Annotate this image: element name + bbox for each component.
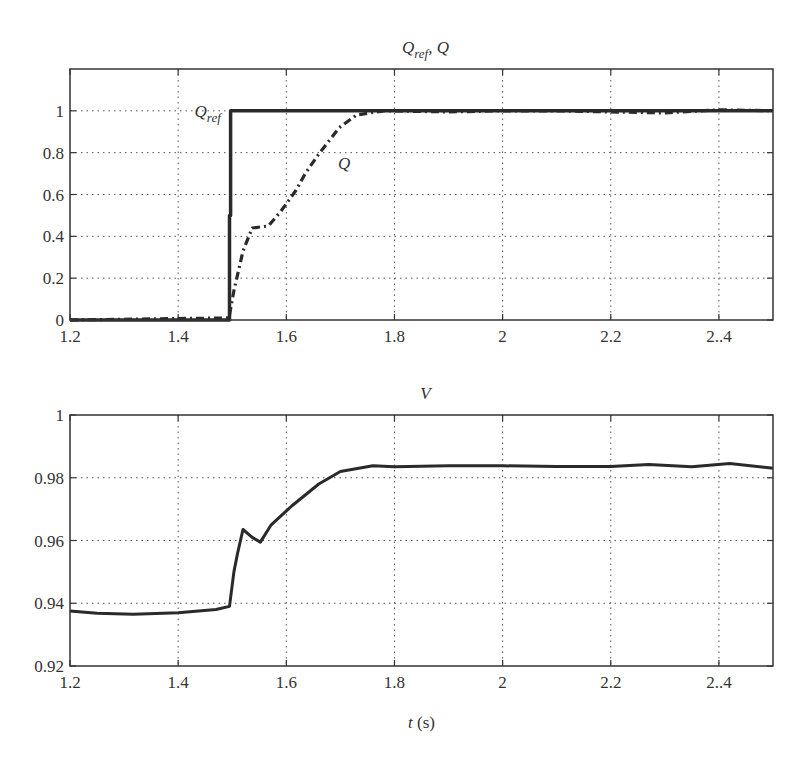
y-tick-label: 0 [56,311,65,330]
x-tick-label: 1.4 [168,327,190,346]
plot-title: Qref, Q [402,38,449,61]
x-tick-label: 2 [498,673,507,692]
y-tick-label: 0.8 [43,144,64,163]
x-tick-label: 2..4 [706,673,732,692]
x-tick-label: 1.6 [276,327,297,346]
x-tick-label: 1.8 [384,673,405,692]
x-tick-label: 1.6 [276,673,297,692]
series-q-ref [70,111,773,320]
x-tick-label: 2 [498,327,507,346]
q-response-plot: 1.21.41.61.822.22..400.20.40.60.81Qref, … [43,38,773,346]
y-tick-label: 0.6 [43,186,64,205]
y-tick-label: 0.4 [43,227,65,246]
x-tick-label: 2..4 [706,327,732,346]
y-tick-label: 0.2 [43,269,64,288]
y-tick-label: 1 [56,406,65,425]
y-tick-label: 0.92 [34,657,64,676]
chart-figure: 1.21.41.61.822.22..400.20.40.60.81Qref, … [0,0,801,759]
series-q [70,110,773,320]
plot-title: V [420,384,433,403]
x-tick-label: 1.4 [168,673,190,692]
y-tick-label: 0.96 [34,532,64,551]
x-tick-label: 1.8 [384,327,405,346]
y-tick-label: 0.94 [34,594,64,613]
y-tick-label: 1 [56,102,65,121]
series-label: Q [338,154,350,173]
y-tick-label: 0.98 [34,469,64,488]
x-tick-label: 2.2 [600,673,621,692]
series-v [70,464,773,615]
series-label: Qref [195,102,224,125]
voltage-plot: 1.21.41.61.822.22..40.920.940.960.981Vt … [34,384,773,732]
x-axis-label: t (s) [408,713,435,732]
x-tick-label: 2.2 [600,327,621,346]
